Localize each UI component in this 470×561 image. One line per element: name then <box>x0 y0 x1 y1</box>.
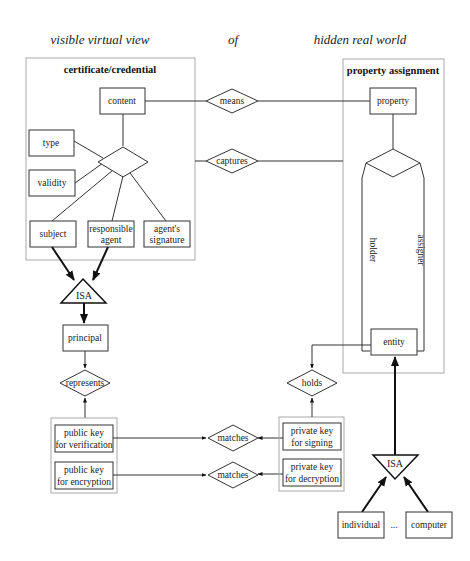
diagram-canvas: visible virtual view of hidden real worl… <box>0 0 470 561</box>
header-middle: of <box>228 32 241 47</box>
responsible-agent-line1: responsible <box>89 224 132 234</box>
isa-right-label: ISA <box>387 458 404 469</box>
pk-encryption-line2: for encryption <box>57 477 111 487</box>
individual-label: individual <box>342 520 381 530</box>
type-label: type <box>43 138 59 148</box>
responsible-agent-line2: agent <box>101 235 122 245</box>
pk-verification-line1: public key <box>64 428 104 438</box>
sk-signing-line2: for signing <box>291 438 333 448</box>
header-right: hidden real world <box>314 32 407 47</box>
agents-signature-line2: signature <box>150 235 185 245</box>
isa-left-label: ISA <box>76 290 93 301</box>
property-assignment-diamond <box>366 149 420 177</box>
principal-label: principal <box>68 333 102 343</box>
captures-label: captures <box>216 156 248 166</box>
agents-signature-line1: agent's <box>154 224 180 234</box>
matches-1-label: matches <box>217 433 248 443</box>
means-label: means <box>220 96 245 106</box>
matches-2-label: matches <box>217 470 248 480</box>
property-group-title: property assignment <box>347 65 440 76</box>
pk-encryption-line1: public key <box>64 465 104 475</box>
entity-label: entity <box>383 337 405 347</box>
header-left: visible virtual view <box>51 32 150 47</box>
pk-verification-line2: for verification <box>55 440 112 450</box>
assigner-label: assigner <box>416 234 426 266</box>
holds-label: holds <box>302 378 323 388</box>
represents-label: represents <box>66 378 105 388</box>
certificate-group-title: certificate/credential <box>64 64 157 75</box>
sk-decryption-line1: private key <box>291 462 334 472</box>
certificate-relationship-diamond <box>98 147 148 177</box>
holder-label: holder <box>368 238 378 263</box>
sk-decryption-line2: for decryption <box>285 474 339 484</box>
ellipsis-label: ... <box>390 520 397 530</box>
sk-signing-line1: private key <box>291 426 334 436</box>
computer-label: computer <box>411 520 448 530</box>
subject-label: subject <box>40 229 67 239</box>
validity-label: validity <box>37 178 66 188</box>
content-label: content <box>108 96 136 106</box>
property-label: property <box>377 96 409 106</box>
